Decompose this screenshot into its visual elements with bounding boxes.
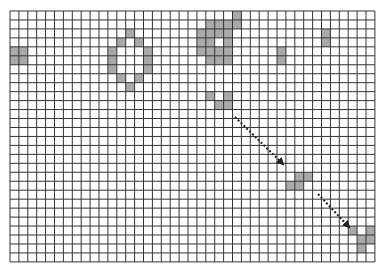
live-cell[interactable]	[224, 38, 233, 47]
live-cell[interactable]	[224, 29, 233, 38]
live-cell[interactable]	[197, 29, 206, 38]
live-cell[interactable]	[215, 101, 224, 110]
live-cell[interactable]	[304, 172, 313, 181]
live-cell[interactable]	[206, 20, 215, 29]
live-cell[interactable]	[144, 65, 153, 74]
live-cell[interactable]	[215, 29, 224, 38]
live-cell[interactable]	[224, 47, 233, 56]
live-cell[interactable]	[117, 38, 126, 47]
live-cell[interactable]	[295, 181, 304, 190]
live-cell[interactable]	[224, 101, 233, 110]
live-cell[interactable]	[277, 47, 286, 56]
live-cell[interactable]	[144, 47, 153, 56]
live-cell[interactable]	[322, 29, 331, 38]
live-cell[interactable]	[277, 56, 286, 65]
live-cell[interactable]	[286, 181, 295, 190]
live-cell[interactable]	[215, 47, 224, 56]
live-cell[interactable]	[348, 226, 357, 235]
live-cell[interactable]	[206, 47, 215, 56]
live-cell[interactable]	[19, 47, 28, 56]
live-cell[interactable]	[206, 29, 215, 38]
live-cell[interactable]	[144, 56, 153, 65]
live-cell[interactable]	[215, 56, 224, 65]
live-cell[interactable]	[108, 56, 117, 65]
live-cell[interactable]	[357, 244, 366, 253]
live-cell[interactable]	[10, 47, 19, 56]
live-cell[interactable]	[135, 74, 144, 83]
live-cell[interactable]	[206, 38, 215, 47]
live-cell[interactable]	[224, 20, 233, 29]
live-cell[interactable]	[108, 65, 117, 74]
live-cell[interactable]	[206, 56, 215, 65]
live-cell[interactable]	[126, 83, 135, 92]
live-cell[interactable]	[206, 92, 215, 101]
game-board[interactable]	[0, 0, 384, 268]
live-cell[interactable]	[233, 11, 242, 20]
live-cell[interactable]	[126, 29, 135, 38]
live-cell[interactable]	[233, 20, 242, 29]
live-cell[interactable]	[135, 38, 144, 47]
live-cell[interactable]	[10, 56, 19, 65]
live-cell[interactable]	[197, 47, 206, 56]
live-cell[interactable]	[366, 226, 375, 235]
live-cell[interactable]	[366, 235, 375, 244]
grid-lines	[10, 11, 375, 262]
live-cell[interactable]	[357, 235, 366, 244]
live-cell[interactable]	[197, 38, 206, 47]
live-cell[interactable]	[224, 56, 233, 65]
live-cell[interactable]	[224, 92, 233, 101]
live-cell[interactable]	[295, 172, 304, 181]
live-cell[interactable]	[322, 38, 331, 47]
live-cell[interactable]	[19, 56, 28, 65]
live-cell[interactable]	[108, 47, 117, 56]
live-cell[interactable]	[215, 20, 224, 29]
live-cell[interactable]	[117, 74, 126, 83]
